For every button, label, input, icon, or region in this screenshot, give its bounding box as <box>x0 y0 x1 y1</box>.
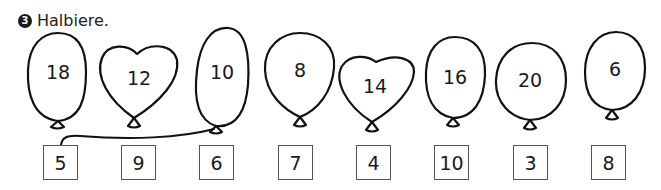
connection-line <box>61 129 214 145</box>
answer-box[interactable]: 7 <box>278 145 313 180</box>
balloon-value: 14 <box>363 75 387 97</box>
answer-box[interactable]: 3 <box>513 145 548 180</box>
answer-box[interactable]: 9 <box>121 145 156 180</box>
answer-box[interactable]: 10 <box>434 145 469 180</box>
balloon-value: 8 <box>294 59 306 81</box>
balloon-value: 16 <box>443 66 467 88</box>
balloon-value: 18 <box>46 61 70 83</box>
balloon-value: 20 <box>518 69 542 91</box>
answer-box[interactable]: 6 <box>199 145 234 180</box>
balloon-value: 6 <box>609 58 621 80</box>
balloon-value: 10 <box>210 61 234 83</box>
answer-box[interactable]: 8 <box>591 145 626 180</box>
answer-box[interactable]: 4 <box>356 145 391 180</box>
answer-box[interactable]: 5 <box>43 145 78 180</box>
balloon-value: 12 <box>127 67 151 89</box>
balloon-scene: 18 12 10 8 14 16 20 6 <box>0 0 661 190</box>
